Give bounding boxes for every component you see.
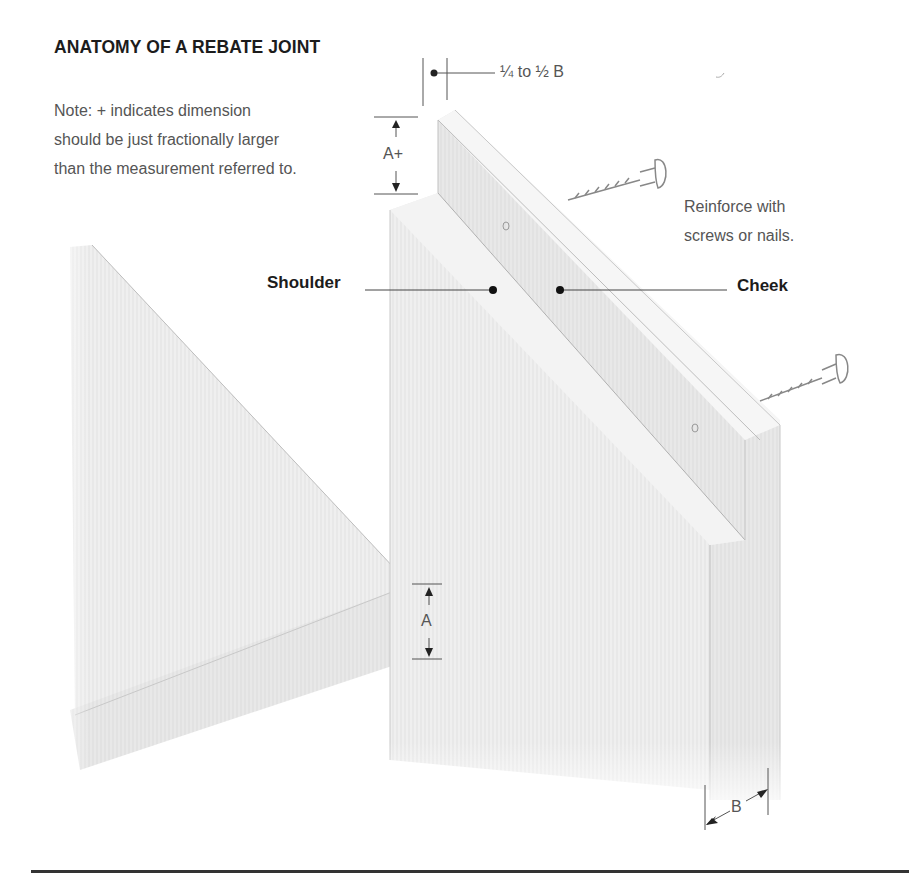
bottom-rule (31, 870, 909, 873)
board-thickness-label: A (421, 612, 432, 630)
rebate-depth-label: A+ (383, 145, 403, 163)
screw-icon (760, 354, 848, 401)
reinforce-note: Reinforce with screws or nails. (684, 192, 794, 250)
reinforce-line: Reinforce with (684, 192, 794, 221)
cheek-label: Cheek (737, 276, 788, 296)
left-board (40, 230, 410, 790)
reinforce-line: screws or nails. (684, 221, 794, 250)
shoulder-label: Shoulder (267, 273, 341, 293)
screw-icon (568, 159, 666, 200)
rebate-width-label: ¼ to ½ B (500, 63, 564, 81)
board-width-label: B (731, 798, 742, 816)
rebate-width-dimension (423, 58, 495, 106)
rebate-joint-illustration (0, 0, 915, 894)
